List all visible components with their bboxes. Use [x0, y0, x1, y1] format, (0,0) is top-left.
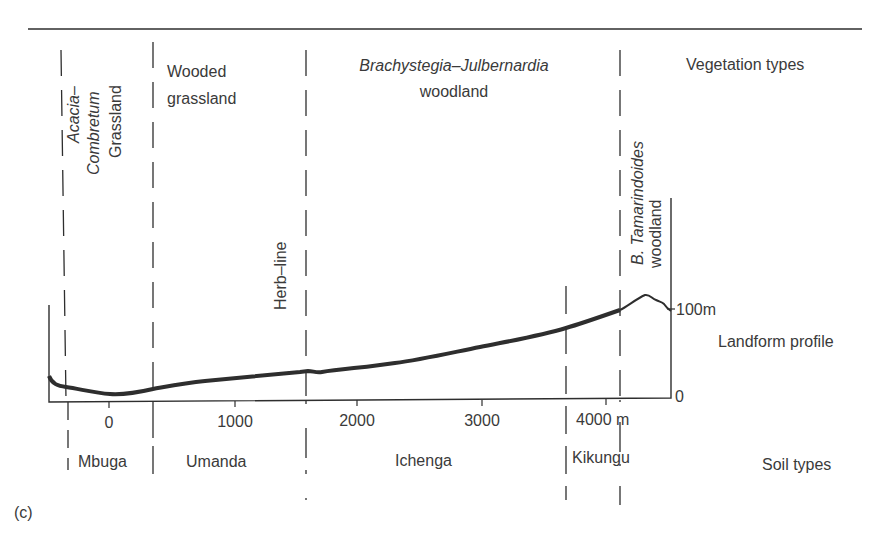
veg-wooded-label-1: Wooded — [167, 63, 226, 80]
figure-label: (c) — [14, 504, 33, 521]
soil-mbuga: Mbuga — [78, 453, 127, 470]
svg-text:Grassland: Grassland — [107, 85, 124, 158]
veg-brachystegia-label-1: Brachystegia–Julbernardia — [359, 57, 549, 74]
veg-wooded-label-2: grassland — [167, 90, 236, 107]
veg-acacia-label: Acacia– Combretum Grassland — [65, 85, 124, 175]
landform-axes — [49, 198, 671, 402]
soil-types-header: Soil types — [762, 456, 831, 473]
soil-umanda: Umanda — [186, 453, 247, 470]
x-tick-1000: 1000 — [217, 413, 253, 430]
y-label-100m: 100m — [676, 301, 716, 318]
soil-kikungu: Kikungu — [572, 449, 630, 466]
y-label-0: 0 — [675, 388, 684, 405]
landform-profile-peak — [620, 295, 671, 311]
soil-ichenga: Ichenga — [395, 452, 452, 469]
x-tick-4000: 4000 m — [576, 411, 629, 428]
veg-brachystegia-label-2: woodland — [419, 83, 489, 100]
landform-diagram: Acacia– Combretum Grassland Wooded grass… — [0, 0, 892, 543]
svg-text:B. Tamarindoides: B. Tamarindoides — [629, 141, 646, 265]
veg-tamarindoides-label: B. Tamarindoides woodland — [629, 141, 664, 269]
x-tick-3000: 3000 — [464, 412, 500, 429]
x-ticks — [109, 399, 606, 408]
x-tick-0: 0 — [105, 414, 114, 431]
vegetation-header: Vegetation types — [686, 56, 804, 73]
landform-profile-curve — [49, 310, 620, 394]
herb-line-label: Herb–line — [272, 241, 289, 310]
svg-text:woodland: woodland — [647, 200, 664, 270]
x-tick-2000: 2000 — [339, 412, 375, 429]
svg-text:Combretum: Combretum — [85, 91, 102, 175]
svg-text:Acacia–: Acacia– — [65, 86, 82, 144]
landform-profile-label: Landform profile — [718, 333, 834, 350]
